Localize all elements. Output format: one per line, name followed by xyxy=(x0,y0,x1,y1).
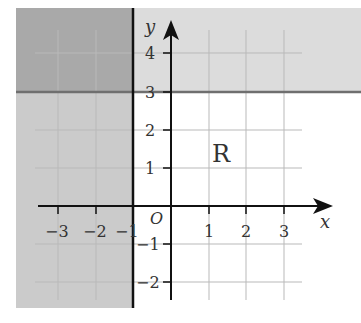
x-tick-label: −3 xyxy=(45,222,69,241)
shade-left-band xyxy=(16,92,133,308)
y-axis-label: y xyxy=(144,16,156,37)
y-tick-label: 2 xyxy=(145,121,155,140)
y-tick-label: −2 xyxy=(136,273,160,292)
y-tick-label: 3 xyxy=(145,83,155,102)
x-tick-label: 3 xyxy=(279,222,289,241)
origin-label: O xyxy=(150,209,163,228)
y-tick-label: −1 xyxy=(136,235,160,254)
region-label: R xyxy=(212,140,231,168)
y-tick-label: 1 xyxy=(145,159,155,178)
x-axis-label: x xyxy=(320,211,330,232)
x-tick-label: 1 xyxy=(204,222,214,241)
y-tick-label: 4 xyxy=(145,44,155,63)
x-tick-label: −2 xyxy=(83,222,107,241)
x-tick-label: 2 xyxy=(241,222,251,241)
shade-overlap xyxy=(16,8,133,92)
coordinate-plane: y x O −3 −2 −1 1 2 3 4 3 2 1 −1 −2 R xyxy=(0,0,361,323)
